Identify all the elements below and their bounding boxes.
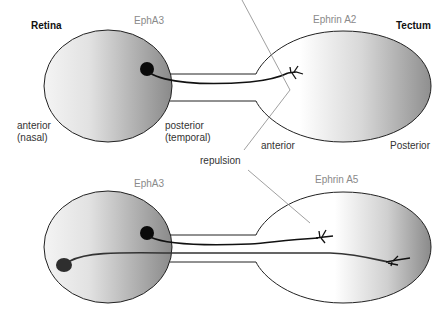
bottom-panel: [44, 191, 431, 303]
ligand-label-top: Ephrin A2: [313, 14, 357, 25]
retina-bottom: [44, 191, 172, 303]
tectum-top: [256, 31, 431, 142]
retina-posterior-sub: (temporal): [165, 132, 211, 143]
receptor-label-top: EphA3: [134, 15, 164, 26]
neuron-nasal-bottom: [56, 258, 72, 272]
repulsion-label: repulsion: [200, 155, 241, 166]
tectum-bottom: [256, 192, 431, 303]
tectum-title: Tectum: [396, 20, 431, 31]
retina-posterior-label: posterior: [165, 120, 205, 131]
retina-anterior-label: anterior: [17, 120, 52, 131]
retinotectal-diagram: Retina Tectum EphA3 Ephrin A2 anterior (…: [0, 0, 448, 319]
tectum-anterior-label: anterior: [261, 140, 296, 151]
retina-top: [44, 30, 172, 142]
ligand-label-bottom: Ephrin A5: [315, 174, 359, 185]
receptor-label-bottom: EphA3: [134, 178, 164, 189]
top-panel: [44, 30, 431, 142]
retina-title: Retina: [31, 20, 62, 31]
tectum-posterior-label: Posterior: [390, 140, 431, 151]
retina-anterior-sub: (nasal): [17, 132, 48, 143]
